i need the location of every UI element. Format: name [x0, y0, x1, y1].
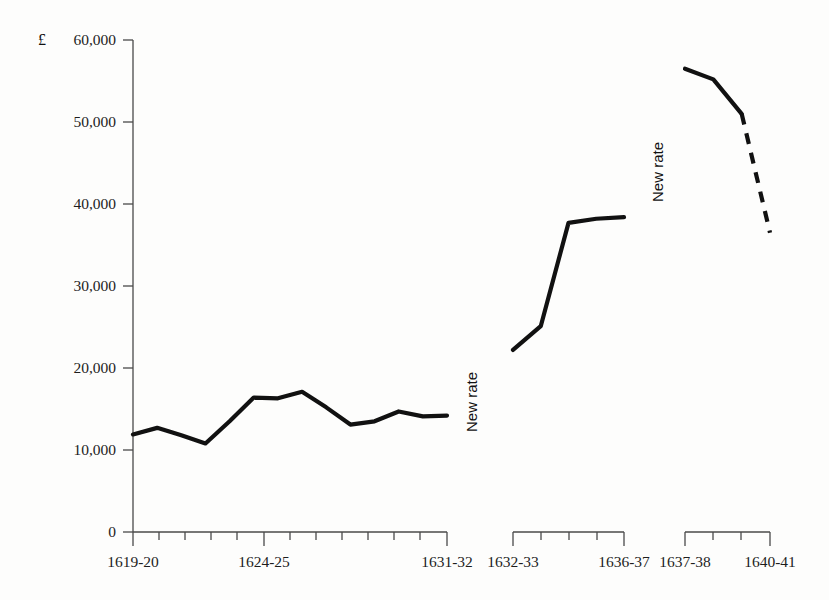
x-label-1636-37: 1636-37 — [598, 553, 650, 570]
x-label-1619-20: 1619-20 — [107, 553, 159, 570]
series-line-segment-3-dashed — [742, 114, 770, 233]
y-tick-label-60000: 60,000 — [73, 31, 116, 48]
annotation-new-rate-2: New rate — [649, 142, 666, 202]
y-tick-label-10000: 10,000 — [73, 441, 116, 458]
y-axis-currency-symbol: £ — [38, 31, 46, 48]
y-tick-label-30000: 30,000 — [73, 277, 116, 294]
line-chart-figure: 60,000 50,000 40,000 30,000 20,000 10,00… — [0, 0, 829, 600]
x-label-1631-32: 1631-32 — [421, 553, 473, 570]
y-axis: 60,000 50,000 40,000 30,000 20,000 10,00… — [38, 31, 133, 540]
x-label-1624-25: 1624-25 — [238, 553, 290, 570]
y-tick-label-50000: 50,000 — [73, 113, 116, 130]
x-axis-segment-3: 1637-38 1640-41 — [659, 532, 796, 570]
series-line-segment-3-solid — [685, 69, 742, 114]
x-axis-segment-1: 1619-20 1624-25 1631-32 — [107, 532, 473, 570]
series-line-segment-1 — [133, 392, 447, 444]
y-tick-label-0: 0 — [108, 523, 116, 540]
series-line-segment-2 — [513, 217, 624, 350]
y-tick-label-40000: 40,000 — [73, 195, 116, 212]
x-axis-segment-2: 1632-33 1636-37 — [487, 532, 650, 570]
annotation-new-rate-1: New rate — [463, 372, 480, 432]
chart-page: 60,000 50,000 40,000 30,000 20,000 10,00… — [0, 0, 829, 600]
x-label-1640-41: 1640-41 — [744, 553, 796, 570]
y-tick-label-20000: 20,000 — [73, 359, 116, 376]
annotations-group: New rate New rate — [463, 142, 666, 432]
x-label-1632-33: 1632-33 — [487, 553, 539, 570]
data-series-group — [133, 69, 770, 444]
x-label-1637-38: 1637-38 — [659, 553, 711, 570]
